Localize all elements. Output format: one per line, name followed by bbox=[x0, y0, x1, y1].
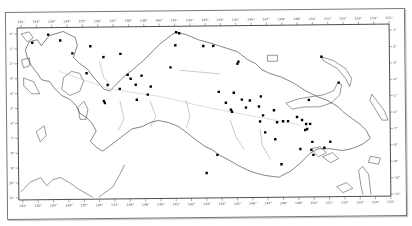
graticule-label: 151° bbox=[324, 17, 332, 21]
graticule-label: 148° bbox=[278, 17, 286, 21]
graticule-label: 138° bbox=[126, 203, 134, 207]
graticule-label: 147° bbox=[264, 201, 272, 205]
graticule-label: 135° bbox=[80, 203, 88, 207]
graticule-label: 11° bbox=[9, 196, 15, 200]
locality-dot bbox=[104, 102, 106, 104]
graticule-label: 2° bbox=[10, 62, 14, 66]
graticule-labels: 131°132°133°134°135°136°137°138°139°140°… bbox=[7, 16, 401, 208]
graticule-label: 143° bbox=[203, 202, 211, 206]
locality-dot bbox=[129, 78, 131, 80]
locality-dot bbox=[309, 123, 311, 125]
graticule-label: 155° bbox=[387, 200, 395, 204]
locality-dot bbox=[259, 120, 261, 122]
graticule-label: 5° bbox=[10, 107, 14, 111]
coastline-aru-islands bbox=[36, 101, 88, 142]
locality-dot bbox=[306, 128, 308, 130]
locality-dot bbox=[147, 93, 149, 95]
locality-dot bbox=[178, 32, 180, 34]
graticule-label: 5° bbox=[394, 94, 398, 98]
coastline-islands-east bbox=[267, 54, 380, 193]
graticule-label: 135° bbox=[79, 19, 87, 23]
graticule-label: 4° bbox=[10, 92, 14, 96]
graticule-label: 132° bbox=[34, 204, 42, 208]
locality-dot bbox=[260, 95, 262, 97]
graticule-label: 1° bbox=[393, 28, 397, 32]
graticule-label: 9° bbox=[394, 159, 398, 163]
coastline-new-ireland bbox=[321, 56, 351, 86]
locality-dot bbox=[89, 45, 91, 47]
locality-dot bbox=[119, 88, 121, 90]
graticule-label: 141° bbox=[170, 18, 178, 22]
graticule-label: 140° bbox=[155, 18, 163, 22]
locality-dot bbox=[329, 140, 331, 142]
graticule-label: 137° bbox=[111, 203, 119, 207]
graticule-label: 150° bbox=[308, 17, 316, 21]
graticule-label: 7° bbox=[394, 126, 398, 130]
locality-dot bbox=[258, 105, 260, 107]
locality-dot bbox=[274, 138, 276, 140]
graticule-label: 3° bbox=[10, 77, 14, 81]
graticule-label: 1° bbox=[10, 47, 14, 51]
graticule-label: 145° bbox=[234, 202, 242, 206]
locality-dot bbox=[47, 33, 49, 35]
locality-dot bbox=[264, 131, 266, 133]
graticule-label: 131° bbox=[17, 20, 25, 24]
graticule-label: 134° bbox=[65, 203, 73, 207]
locality-dot bbox=[31, 42, 33, 44]
locality-dot bbox=[119, 53, 121, 55]
locality-dot bbox=[245, 106, 247, 108]
graticule-label: 146° bbox=[249, 201, 257, 205]
graticule-label: 10° bbox=[9, 181, 15, 185]
graticule-label: 136° bbox=[94, 19, 102, 23]
locality-dot bbox=[320, 56, 322, 58]
graticule-ticks bbox=[14, 21, 394, 203]
graticule-label: 155° bbox=[385, 16, 393, 20]
graticule-label: 134° bbox=[63, 19, 71, 23]
river-system bbox=[99, 59, 270, 161]
graticule-label: 8° bbox=[11, 151, 15, 155]
graticule-label: 152° bbox=[341, 201, 349, 205]
locality-dot bbox=[337, 81, 339, 83]
graticule-label: 144° bbox=[216, 18, 224, 22]
locality-dot bbox=[249, 99, 251, 101]
graticule-label: 8° bbox=[394, 143, 398, 147]
locality-dot bbox=[106, 84, 108, 86]
graticule-label: 143° bbox=[201, 18, 209, 22]
graticule-label: 151° bbox=[326, 201, 334, 205]
locality-dot bbox=[241, 98, 243, 100]
graticule-label: 145° bbox=[232, 18, 240, 22]
graticule-label: 11° bbox=[395, 192, 401, 196]
locality-dot bbox=[310, 149, 312, 151]
graticule-label: 146° bbox=[247, 17, 255, 21]
locality-dot bbox=[218, 91, 220, 93]
coastline-new-britain bbox=[286, 83, 342, 110]
graticule-label: 2° bbox=[393, 44, 397, 48]
new-guinea-map: 131°132°133°134°135°136°137°138°139°140°… bbox=[0, 0, 412, 226]
graticule-label: 9° bbox=[11, 166, 15, 170]
locality-dot bbox=[174, 44, 176, 46]
graticule-label: 7° bbox=[11, 136, 15, 140]
locality-dot bbox=[231, 111, 233, 113]
locality-dot bbox=[85, 72, 87, 74]
locality-dot bbox=[71, 52, 73, 54]
locality-dot bbox=[299, 148, 301, 150]
locality-dot bbox=[169, 66, 171, 68]
graticule-label: 149° bbox=[295, 201, 303, 205]
locality-dot bbox=[308, 99, 310, 101]
locality-dot bbox=[280, 163, 282, 165]
graticule-label: 133° bbox=[50, 204, 58, 208]
graticule-label: 147° bbox=[262, 17, 270, 21]
coastline-australia bbox=[21, 162, 371, 198]
graticule-label: 153° bbox=[354, 16, 362, 20]
locality-dot bbox=[216, 154, 218, 156]
locality-points bbox=[31, 29, 341, 176]
graticule-label: 141° bbox=[172, 202, 180, 206]
locality-dot bbox=[59, 39, 61, 41]
locality-dot bbox=[236, 62, 238, 64]
locality-dot bbox=[276, 121, 278, 123]
locality-dot bbox=[175, 31, 177, 33]
locality-dot bbox=[212, 45, 214, 47]
locality-dot bbox=[225, 102, 227, 104]
locality-dot bbox=[202, 45, 204, 47]
locality-dot bbox=[233, 91, 235, 93]
